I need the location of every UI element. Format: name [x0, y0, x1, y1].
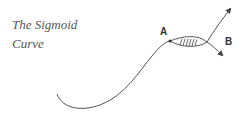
continuation-curve-up [170, 9, 230, 42]
sigmoid-diagram [0, 0, 247, 119]
hatch-marks [180, 39, 197, 46]
sigmoid-curve [57, 41, 170, 108]
point-a-dot [169, 40, 172, 43]
